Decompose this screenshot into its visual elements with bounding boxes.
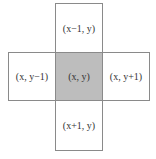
cell-left: (x, y−1)	[8, 52, 56, 101]
cell-center: (x, y)	[55, 52, 103, 101]
cell-bottom-label: (x+1, y)	[63, 120, 95, 131]
cell-bottom: (x+1, y)	[55, 100, 103, 151]
cell-right: (x, y+1)	[102, 52, 150, 101]
cell-left-label: (x, y−1)	[16, 71, 48, 82]
cell-top: (x−1, y)	[55, 3, 103, 53]
cell-right-label: (x, y+1)	[110, 71, 142, 82]
cell-top-label: (x−1, y)	[63, 23, 95, 34]
cell-center-label: (x, y)	[68, 71, 90, 82]
